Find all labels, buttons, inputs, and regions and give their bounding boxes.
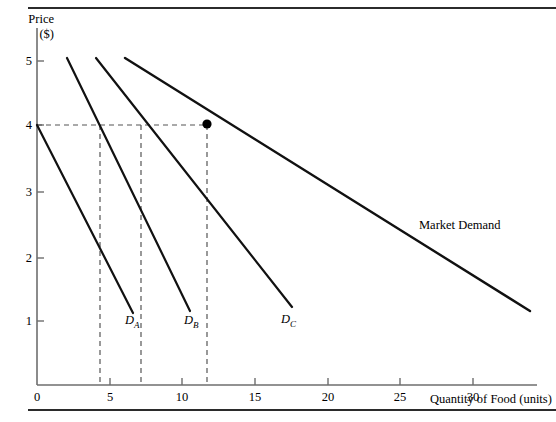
market-equilibrium-point	[202, 119, 211, 128]
x-axis-ticks	[110, 378, 473, 385]
plot-area	[0, 0, 556, 422]
demand-curve-d-a	[37, 125, 133, 313]
demand-curve-d-b	[67, 58, 190, 311]
demand-curve-d-c	[96, 58, 292, 307]
demand-curve-market	[125, 58, 530, 311]
y-axis-ticks	[37, 61, 44, 321]
demand-curve-figure: Price ($) Quantity of Food (units) 5 4 3…	[0, 0, 556, 422]
